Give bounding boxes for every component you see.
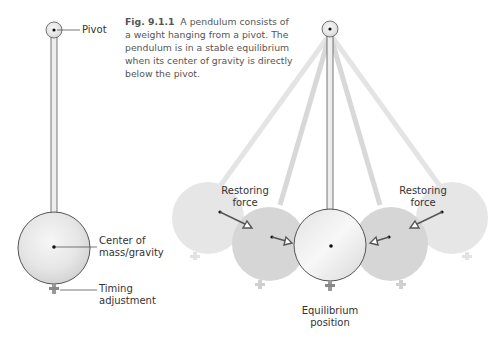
restoring-force-label-left: Restoring force [215,185,275,209]
left-pendulum [18,22,97,294]
timing-adjustment-icon [49,284,59,294]
restoring-force-label-right: Restoring force [393,185,453,209]
ghost-rod-far-right [330,34,450,200]
ghost-rod-near-right [330,34,380,205]
center-of-mass-label: Center of mass/gravity [99,235,164,259]
center-dot [329,244,333,248]
rod [327,34,333,210]
figure-caption: Fig. 9.1.1 A pendulum consists of a weig… [125,15,295,80]
figure-number: Fig. 9.1.1 [125,16,174,27]
pivot-label: Pivot [82,24,107,36]
equilibrium-position-label: Equilibrium position [295,305,365,329]
timing-adjustment-label: Timing adjustment [99,283,156,307]
timing-adjustment-icon [325,281,335,291]
rod [51,36,57,214]
